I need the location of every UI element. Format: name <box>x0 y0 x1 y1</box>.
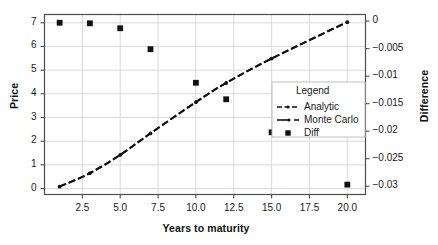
legend-title: Legend <box>296 85 329 96</box>
legend-glyph-montecarlo-dot <box>288 119 291 122</box>
data-point-marker <box>194 100 198 104</box>
diff-square-marker <box>57 20 63 26</box>
legend-entry-label-analytic: Analytic <box>304 101 339 112</box>
y-axis-right-tick-label: −0.01 <box>373 69 421 80</box>
y-axis-right-tick-label: −0.005 <box>373 42 421 53</box>
legend-entry-label-monte-carlo: Monte Carlo <box>304 114 358 125</box>
y-axis-left-tick-label: 5 <box>3 63 37 74</box>
data-point-marker <box>270 57 274 61</box>
x-axis-tick-label: 2.5 <box>62 202 102 213</box>
y-axis-right-tick-label: −0.02 <box>373 124 421 135</box>
legend-glyph-diff-square <box>285 130 290 135</box>
diff-square-marker <box>344 182 350 188</box>
legend-glyph-analytic-dot <box>287 106 290 109</box>
data-point-marker <box>58 185 62 189</box>
x-axis-tick-label: 15.0 <box>252 202 292 213</box>
y-axis-right-tick-label: 0 <box>373 14 421 25</box>
diff-square-marker <box>148 46 154 52</box>
x-axis-tick-label: 17.5 <box>289 202 329 213</box>
x-axis-tick-label: 12.5 <box>214 202 254 213</box>
x-axis-tick-label: 20.0 <box>327 202 367 213</box>
chart-container: Price Difference Years to maturity 01234… <box>0 0 438 245</box>
diff-square-marker <box>223 96 229 102</box>
y-axis-left-tick-label: 0 <box>3 182 37 193</box>
y-axis-left-tick-label: 7 <box>3 16 37 27</box>
diff-square-marker <box>87 20 93 26</box>
y-axis-left-tick-label: 6 <box>3 39 37 50</box>
diff-square-marker <box>193 80 199 86</box>
y-axis-right-tick-label: −0.015 <box>373 97 421 108</box>
y-axis-right-tick-label: −0.025 <box>373 152 421 163</box>
data-point-marker <box>149 131 153 135</box>
y-axis-left-tick-label: 1 <box>3 158 37 169</box>
y-axis-left-tick-label: 3 <box>3 111 37 122</box>
diff-square-marker <box>117 25 123 31</box>
legend-entry-label-diff: Diff <box>304 127 319 138</box>
data-point-marker <box>118 153 122 157</box>
x-axis-tick-label: 10.0 <box>176 202 216 213</box>
data-point-marker <box>88 171 92 175</box>
data-point-marker <box>345 20 349 24</box>
y-axis-right-tick-label: −0.03 <box>373 179 421 190</box>
y-axis-left-tick-label: 4 <box>3 87 37 98</box>
data-point-marker <box>224 81 228 85</box>
y-axis-left-tick-label: 2 <box>3 134 37 145</box>
x-axis-tick-label: 5.0 <box>100 202 140 213</box>
x-axis-tick-label: 7.5 <box>138 202 178 213</box>
